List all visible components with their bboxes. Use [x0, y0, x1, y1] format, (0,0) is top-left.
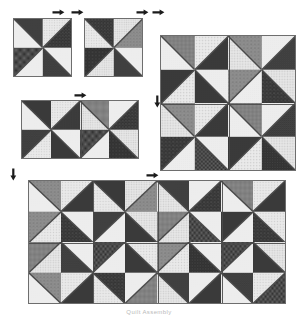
hst-unit [221, 242, 253, 273]
hst-unit [93, 181, 125, 212]
hst-unit [262, 137, 296, 171]
hst-unit [161, 103, 195, 137]
hst-unit [189, 242, 221, 273]
hst-unit [29, 273, 61, 304]
unit-grid [14, 19, 71, 76]
hst-unit [221, 273, 253, 304]
hst-unit [109, 101, 138, 130]
hst-unit [61, 273, 93, 304]
hst-unit [125, 212, 157, 243]
hst-unit [85, 48, 114, 77]
hst-unit [29, 212, 61, 243]
hst-unit [228, 137, 262, 171]
hst-unit [221, 181, 253, 212]
hst-unit [93, 273, 125, 304]
hst-unit [195, 70, 229, 104]
hst-unit [125, 242, 157, 273]
quilt-diagram-full-quilt-top [28, 180, 286, 304]
hst-unit [189, 212, 221, 243]
hst-unit [253, 273, 285, 304]
quilt-diagram-unit-block-a [13, 18, 72, 77]
hst-unit [51, 130, 80, 159]
hst-unit [80, 101, 109, 130]
hst-unit [109, 130, 138, 159]
hst-unit [14, 19, 43, 48]
hst-unit [161, 137, 195, 171]
hst-unit [157, 181, 189, 212]
figure-caption: Quilt Assembly [0, 309, 298, 315]
hst-unit [61, 242, 93, 273]
quilt-diagram-row-pair [21, 100, 139, 159]
quilt-diagram-unit-block-b [84, 18, 143, 77]
unit-grid [85, 19, 142, 76]
hst-unit [262, 103, 296, 137]
hst-unit [195, 103, 229, 137]
hst-unit [114, 48, 143, 77]
hst-unit [189, 181, 221, 212]
hst-unit [61, 181, 93, 212]
hst-unit [262, 36, 296, 70]
hst-unit [157, 273, 189, 304]
hst-unit [61, 212, 93, 243]
hst-unit [195, 137, 229, 171]
block-seam-horizontal [161, 104, 295, 105]
hst-unit [157, 242, 189, 273]
hst-unit [125, 181, 157, 212]
hst-unit [228, 103, 262, 137]
hst-unit [43, 48, 72, 77]
hst-unit [93, 212, 125, 243]
quilt-diagram-four-block [160, 35, 296, 171]
hst-unit [157, 212, 189, 243]
hst-unit [29, 242, 61, 273]
hst-unit [93, 242, 125, 273]
hst-unit [228, 36, 262, 70]
block-seam-horizontal [29, 243, 285, 244]
hst-unit [85, 19, 114, 48]
hst-unit [80, 130, 109, 159]
hst-unit [29, 181, 61, 212]
hst-unit [253, 181, 285, 212]
hst-unit [253, 242, 285, 273]
hst-unit [51, 101, 80, 130]
hst-unit [228, 70, 262, 104]
hst-unit [262, 70, 296, 104]
hst-unit [161, 36, 195, 70]
hst-unit [14, 48, 43, 77]
block-seam-vertical [81, 101, 82, 158]
hst-unit [125, 273, 157, 304]
hst-unit [22, 101, 51, 130]
hst-unit [189, 273, 221, 304]
hst-unit [161, 70, 195, 104]
hst-unit [195, 36, 229, 70]
hst-unit [221, 212, 253, 243]
figure-canvas: Quilt Assembly [0, 0, 298, 321]
hst-unit [22, 130, 51, 159]
hst-unit [43, 19, 72, 48]
hst-unit [253, 212, 285, 243]
hst-unit [114, 19, 143, 48]
